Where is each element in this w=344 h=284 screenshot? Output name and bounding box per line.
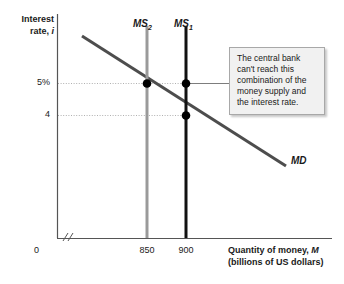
y-axis-title-variable: i <box>51 26 54 36</box>
ms1-curve-label-subscript: 1 <box>189 24 193 31</box>
x-tick-label-0: 0 <box>34 245 39 256</box>
chart-canvas <box>0 0 344 284</box>
axis-break-mark <box>68 233 73 241</box>
md-curve-label: MD <box>291 155 307 166</box>
x-tick-label-900: 900 <box>172 245 200 256</box>
ms2-curve-label: MS2 <box>133 18 152 33</box>
y-axis-title-line2: rate, <box>30 26 52 36</box>
ms2-curve-label-subscript: 2 <box>148 24 152 31</box>
marker-unreachable-point <box>182 79 191 88</box>
ms2-curve-label-text: MS <box>133 18 148 29</box>
money-market-chart: Interestrate, i 5% 4 0 850 900 Quantity … <box>0 0 344 284</box>
ms1-curve-label: MS1 <box>174 18 193 33</box>
y-tick-label-4: 4 <box>22 109 50 120</box>
y-axis-title: Interestrate, i <box>8 14 54 37</box>
x-axis-title-main: Quantity of money, <box>228 245 311 255</box>
x-axis-title: Quantity of money, M(billions of US doll… <box>228 245 342 268</box>
x-tick-label-850: 850 <box>133 245 161 256</box>
ms1-curve-label-text: MS <box>174 18 189 29</box>
x-axis-title-variable: M <box>311 245 319 255</box>
marker-equilibrium-ms1 <box>182 111 191 120</box>
callout-annotation: The central bank can't reach this combin… <box>229 47 325 115</box>
marker-equilibrium-ms2 <box>143 79 152 88</box>
y-tick-label-5-percent: 5% <box>22 77 50 88</box>
y-axis-title-line1: Interest <box>21 14 54 24</box>
axis-break-mark <box>63 233 68 241</box>
x-axis-title-sub: (billions of US dollars) <box>228 257 324 267</box>
